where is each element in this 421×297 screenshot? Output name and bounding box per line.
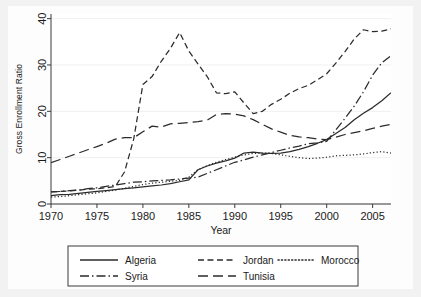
y-tick-label: 10 xyxy=(36,152,48,164)
y-tick-label: 40 xyxy=(36,13,48,25)
y-tick-label: 0 xyxy=(36,201,48,207)
x-tick-label: 1990 xyxy=(223,210,247,222)
y-axis-ticks: 010203040 xyxy=(36,13,51,208)
y-tick-label: 30 xyxy=(36,59,48,71)
legend-label-morocco: Morocco xyxy=(321,255,360,266)
x-axis-ticks: 19701975198019851990199520002005 xyxy=(39,204,385,222)
legend-label-tunisia: Tunisia xyxy=(243,271,275,282)
legend-border xyxy=(68,246,358,286)
x-tick-label: 2000 xyxy=(314,210,338,222)
chart-figure: 010203040 197019751980198519901995200020… xyxy=(0,0,421,297)
x-tick-label: 1980 xyxy=(131,210,155,222)
plot-area-background xyxy=(51,14,391,204)
chart-legend: AlgeriaJordanMoroccoSyriaTunisia xyxy=(68,246,360,286)
x-tick-label: 1970 xyxy=(39,210,63,222)
x-axis-title: Year xyxy=(210,224,232,236)
x-tick-label: 2005 xyxy=(360,210,384,222)
legend-label-algeria: Algeria xyxy=(125,255,157,266)
y-tick-label: 20 xyxy=(36,105,48,117)
legend-label-syria: Syria xyxy=(125,271,148,282)
y-axis-title: Gross Enrollment Ratio xyxy=(14,64,24,154)
line-chart: 010203040 197019751980198519901995200020… xyxy=(8,6,413,289)
x-tick-label: 1985 xyxy=(177,210,201,222)
legend-label-jordan: Jordan xyxy=(243,255,274,266)
figure-canvas: 010203040 197019751980198519901995200020… xyxy=(8,6,413,289)
x-tick-label: 1975 xyxy=(85,210,109,222)
x-tick-label: 1995 xyxy=(268,210,292,222)
